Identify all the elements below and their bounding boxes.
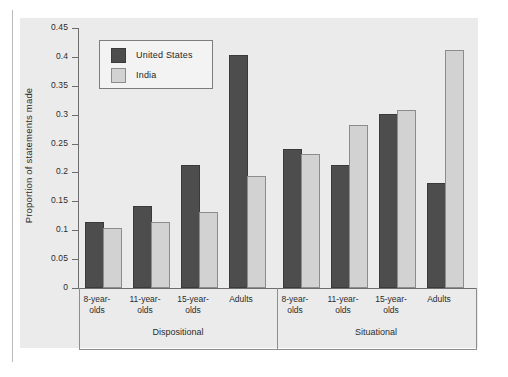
y-tick-label: 0 bbox=[28, 282, 68, 292]
bar-dispositional-adults-india bbox=[247, 176, 266, 288]
y-tick-mark bbox=[72, 288, 78, 289]
legend-swatch-india bbox=[111, 68, 126, 83]
bar-situational-15-year-olds-united-states bbox=[379, 114, 398, 288]
y-tick-mark bbox=[72, 230, 78, 231]
y-tick-label: 0.1 bbox=[28, 224, 68, 234]
y-tick-label-wrap: 0 bbox=[24, 282, 68, 283]
x-label-line: 8-year- bbox=[282, 294, 309, 304]
y-tick-mark bbox=[72, 28, 78, 29]
x-axis-category-label: 15-year-olds bbox=[172, 294, 214, 316]
y-tick-mark bbox=[72, 172, 78, 173]
y-tick-label: 0.2 bbox=[28, 166, 68, 176]
panel-base-dispositional bbox=[79, 349, 277, 350]
panel-edge-right bbox=[476, 288, 477, 350]
y-tick-mark bbox=[72, 201, 78, 202]
y-tick-label: 0.4 bbox=[28, 51, 68, 61]
y-tick-mark bbox=[72, 115, 78, 116]
y-tick-label: 0.05 bbox=[28, 253, 68, 263]
legend-label-india: India bbox=[136, 70, 157, 80]
bar-situational-15-year-olds-india bbox=[397, 110, 416, 288]
bar-situational-adults-united-states bbox=[427, 183, 446, 288]
x-axis-category-label: 11-year-olds bbox=[322, 294, 364, 316]
y-tick-label-wrap: 0.2 bbox=[24, 166, 68, 167]
x-axis-category-label: 8-year-olds bbox=[274, 294, 316, 316]
x-label-line: 11-year- bbox=[327, 294, 358, 304]
y-tick-label-wrap: 0.05 bbox=[24, 253, 68, 254]
y-tick-label-wrap: 0.45 bbox=[24, 22, 68, 23]
bar-situational-adults-india bbox=[445, 50, 464, 288]
x-label-line: olds bbox=[137, 305, 153, 315]
y-tick-label: 0.35 bbox=[28, 80, 68, 90]
x-label-line: 15-year- bbox=[375, 294, 407, 304]
x-axis-category-label: 8-year-olds bbox=[76, 294, 118, 316]
x-label-line: 11-year- bbox=[129, 294, 160, 304]
legend: United States India bbox=[99, 40, 213, 89]
y-tick-label-wrap: 0.1 bbox=[24, 224, 68, 225]
bar-situational-8-year-olds-united-states bbox=[283, 149, 302, 289]
bar-dispositional-15-year-olds-united-states bbox=[181, 165, 200, 288]
y-tick-label: 0.15 bbox=[28, 195, 68, 205]
y-tick-mark bbox=[72, 57, 78, 58]
x-label-line: olds bbox=[89, 305, 105, 315]
x-axis-category-label: 11-year-olds bbox=[124, 294, 166, 316]
x-axis-category-label: Adults bbox=[418, 294, 460, 305]
panel-base-situational bbox=[277, 349, 476, 350]
y-tick-mark bbox=[72, 259, 78, 260]
y-tick-label-wrap: 0.15 bbox=[24, 195, 68, 196]
x-axis-category-label: Adults bbox=[220, 294, 262, 305]
y-tick-label: 0.3 bbox=[28, 109, 68, 119]
legend-swatch-united-states bbox=[111, 48, 126, 63]
x-label-line: Adults bbox=[229, 294, 253, 304]
bar-dispositional-adults-united-states bbox=[229, 55, 248, 288]
x-axis-group-label-situational: Situational bbox=[277, 327, 475, 337]
x-label-line: 15-year- bbox=[177, 294, 209, 304]
x-axis-category-label: 15-year-olds bbox=[370, 294, 412, 316]
bar-dispositional-8-year-olds-united-states bbox=[85, 222, 104, 288]
x-axis-group-label-dispositional: Dispositional bbox=[79, 327, 277, 337]
y-tick-mark bbox=[72, 86, 78, 87]
bar-dispositional-15-year-olds-india bbox=[199, 212, 218, 288]
x-label-line: 8-year- bbox=[84, 294, 111, 304]
y-tick-label-wrap: 0.4 bbox=[24, 51, 68, 52]
bar-dispositional-11-year-olds-india bbox=[151, 222, 170, 288]
y-tick-label-wrap: 0.3 bbox=[24, 109, 68, 110]
bar-situational-11-year-olds-india bbox=[349, 125, 368, 288]
x-label-line: olds bbox=[185, 305, 201, 315]
legend-label-united-states: United States bbox=[136, 50, 193, 60]
y-tick-label: 0.25 bbox=[28, 138, 68, 148]
x-label-line: olds bbox=[383, 305, 399, 315]
y-tick-label-wrap: 0.25 bbox=[24, 138, 68, 139]
bar-chart-figure: Proportion of statements made 00.050.10.… bbox=[0, 0, 508, 377]
bar-situational-8-year-olds-india bbox=[301, 154, 320, 288]
page-left-rule bbox=[12, 10, 13, 362]
bar-dispositional-8-year-olds-india bbox=[103, 228, 122, 288]
x-label-line: olds bbox=[287, 305, 303, 315]
x-label-line: olds bbox=[335, 305, 351, 315]
bar-situational-11-year-olds-united-states bbox=[331, 165, 350, 288]
y-tick-label: 0.45 bbox=[28, 22, 68, 32]
x-label-line: Adults bbox=[427, 294, 451, 304]
bar-dispositional-11-year-olds-united-states bbox=[133, 206, 152, 288]
y-tick-label-wrap: 0.35 bbox=[24, 80, 68, 81]
y-tick-mark bbox=[72, 144, 78, 145]
